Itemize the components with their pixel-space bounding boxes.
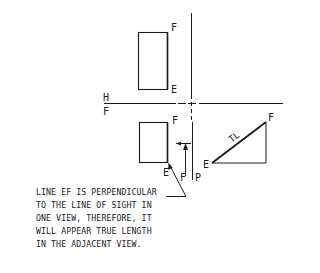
edge-label-f: F bbox=[180, 172, 186, 183]
fold-label-h: H bbox=[103, 92, 109, 103]
front-view-label-e: E bbox=[163, 167, 169, 178]
note-line: ONE VIEW, THEREFORE, IT bbox=[36, 212, 206, 225]
aux-label-f: F bbox=[268, 112, 274, 123]
fold-label-f: F bbox=[103, 106, 109, 117]
edge-label-p: P bbox=[195, 172, 201, 183]
tick-arrowhead-icon bbox=[176, 142, 181, 146]
true-length-line-ef bbox=[212, 122, 266, 163]
note-line: WILL APPEAR TRUE LENGTH bbox=[36, 225, 206, 238]
aux-label-e: E bbox=[203, 159, 209, 170]
explanatory-note: LINE EF IS PERPENDICULAR TO THE LINE OF … bbox=[36, 186, 206, 251]
note-line: LINE EF IS PERPENDICULAR bbox=[36, 186, 206, 199]
front-view-label-f: F bbox=[172, 115, 178, 126]
note-line: TO THE LINE OF SIGHT IN bbox=[36, 199, 206, 212]
sight-arrowhead-icon bbox=[183, 143, 188, 150]
front-view-rectangle bbox=[140, 123, 168, 163]
top-view-rectangle bbox=[139, 33, 168, 90]
note-line: IN THE ADJACENT VIEW. bbox=[36, 238, 206, 251]
top-view-label-e: E bbox=[171, 84, 177, 95]
top-view-label-f: F bbox=[171, 22, 177, 33]
